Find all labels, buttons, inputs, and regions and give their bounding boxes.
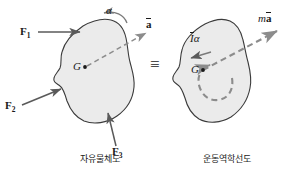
moment-label-alpha: α bbox=[194, 32, 200, 44]
force-label-f2: F2 bbox=[5, 100, 15, 114]
left-center-of-mass-dot bbox=[83, 65, 87, 69]
moment-label-inertia: I bbox=[190, 33, 194, 44]
moment-of-inertia-label: Iα bbox=[190, 33, 199, 44]
mechanics-figure: F1 F2 F3 α a G ≡ Iα G ma 자유물체도 운동역학선도 bbox=[0, 0, 297, 173]
force-f2-arrow bbox=[22, 89, 61, 105]
ma-label: ma bbox=[258, 13, 271, 24]
left-diagram-caption: 자유물체도 bbox=[55, 152, 145, 165]
force-label-f1: F1 bbox=[20, 26, 30, 40]
acceleration-label-left-base: a bbox=[146, 19, 152, 30]
force-label-f2-base: F bbox=[5, 99, 12, 111]
angular-acceleration-label: α bbox=[106, 5, 112, 16]
force-label-f1-sub: 1 bbox=[27, 31, 31, 40]
right-center-of-mass-label: G bbox=[191, 64, 199, 75]
acceleration-label-left: a bbox=[146, 19, 152, 30]
left-center-of-mass-label: G bbox=[73, 61, 81, 72]
ma-label-accel: a bbox=[266, 13, 272, 24]
equivalence-symbol: ≡ bbox=[150, 56, 160, 73]
ma-label-mass: m bbox=[258, 12, 266, 24]
force-label-f1-base: F bbox=[20, 25, 27, 37]
left-body-shape bbox=[54, 19, 134, 123]
force-label-f2-sub: 2 bbox=[12, 105, 16, 114]
right-body-shape bbox=[173, 20, 251, 123]
right-center-of-mass-dot bbox=[201, 68, 205, 72]
right-diagram-caption: 운동역학선도 bbox=[177, 152, 277, 165]
